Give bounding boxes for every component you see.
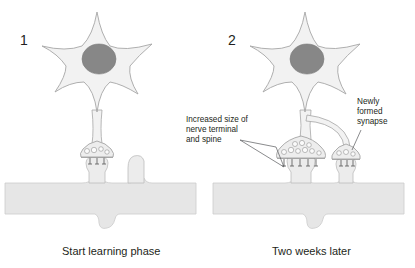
vesicle	[85, 149, 90, 154]
annotation-newly-line-3: synapse	[357, 117, 388, 126]
leader-line-new-synapse	[352, 130, 361, 150]
panel-1: 1 Start learnin	[5, 12, 196, 257]
annotation-newly-formed: Newly formed synapse	[352, 97, 388, 150]
vesicle	[105, 150, 109, 154]
annotation-newly-line-1: Newly	[357, 97, 380, 106]
vesicle	[337, 151, 342, 156]
vesicle	[91, 147, 96, 152]
dendrite-shaft-1	[5, 178, 196, 228]
neuron-nucleus-1	[82, 44, 116, 74]
vesicle	[299, 140, 304, 145]
panel-1-caption: Start learning phase	[62, 245, 160, 257]
panel-2: 2	[186, 12, 404, 257]
vesicle	[293, 142, 298, 147]
vesicle	[282, 150, 287, 155]
annotation-newly-line-2: formed	[357, 107, 383, 116]
vesicle	[344, 150, 349, 155]
receptor	[282, 159, 286, 166]
synapse-diagram: 1 Start learnin	[0, 0, 415, 268]
panel-2-caption: Two weeks later	[272, 245, 351, 257]
annotation-increased-line-3: and spine	[186, 135, 222, 144]
annotation-increased-line-2: nerve terminal	[186, 125, 238, 134]
vesicle	[351, 152, 355, 156]
axon-1	[92, 110, 102, 144]
vesicle	[302, 147, 307, 152]
vesicle	[99, 147, 104, 152]
annotation-increased-size: Increased size of nerve terminal and spi…	[186, 115, 284, 167]
dendrite-shaft-2	[213, 178, 404, 228]
vesicle	[296, 149, 301, 154]
neuron-nucleus-2	[290, 44, 324, 74]
vesicle	[317, 151, 321, 155]
panel-1-number: 1	[20, 32, 28, 48]
annotation-increased-line-1: Increased size of	[186, 115, 249, 124]
vesicle	[307, 143, 312, 148]
figure-root: 1 Start learnin	[0, 0, 415, 268]
dendrite-spine-passive-1	[128, 156, 144, 183]
panel-2-number: 2	[228, 32, 236, 48]
vesicle	[288, 147, 293, 152]
vesicle	[310, 149, 315, 154]
axon-trunk-2	[300, 110, 311, 140]
